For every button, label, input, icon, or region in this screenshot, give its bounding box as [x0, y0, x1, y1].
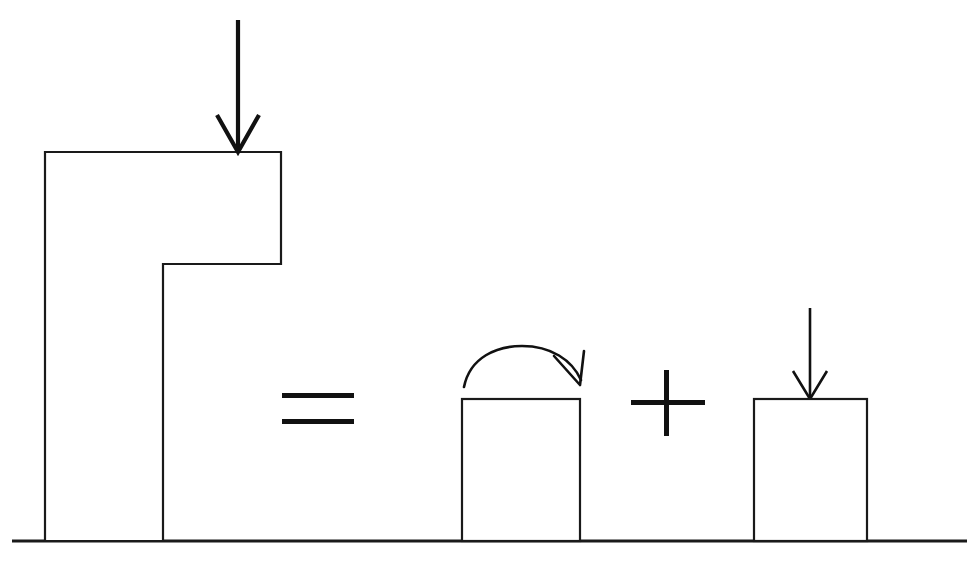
equals-sign [282, 393, 354, 424]
middle-block-group [462, 346, 584, 541]
right-block-group [754, 308, 867, 541]
stepped-l-block [45, 152, 281, 541]
equals-bar-bottom [282, 419, 354, 424]
stepped-block-group [45, 152, 281, 541]
middle-rectangle [462, 399, 580, 541]
equals-bar-top [282, 393, 354, 398]
plus-sign [631, 370, 705, 436]
right-rectangle [754, 399, 867, 541]
superposition-diagram [0, 0, 976, 561]
diagram-canvas [0, 0, 976, 561]
main-load-arrow-group [217, 20, 259, 152]
plus-bar-vertical [664, 370, 669, 436]
